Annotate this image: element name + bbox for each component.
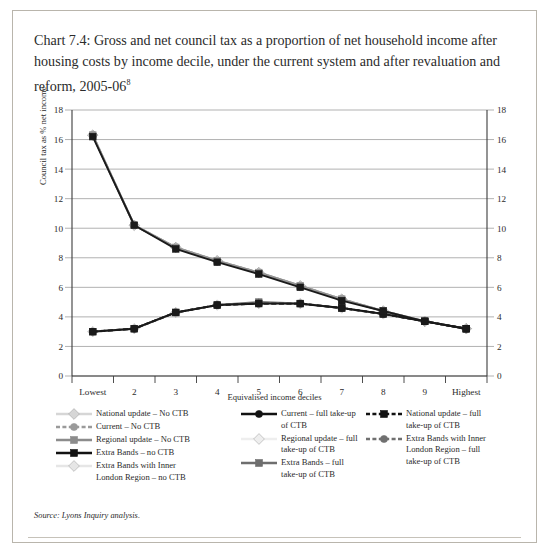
footer-divider [28, 537, 521, 538]
data-point-marker [297, 300, 304, 307]
legend-column-3: National update – fulltake-up of CTBExtr… [366, 408, 526, 469]
legend-key-icon [241, 408, 277, 420]
legend-key [56, 421, 92, 433]
legend-key [241, 408, 277, 420]
legend-key [56, 447, 92, 459]
legend-key-icon [56, 460, 92, 472]
legend-item[interactable]: Current – full take-upof CTB [241, 408, 366, 431]
x-tick-label: 3 [173, 387, 178, 397]
legend-item[interactable]: Regional update – fulltake-up of CTB [241, 433, 366, 456]
series-line [93, 135, 467, 329]
legend-key-icon [241, 433, 277, 445]
series-line [93, 137, 467, 329]
legend-item[interactable]: Extra Bands – no CTB [56, 447, 241, 459]
x-tick-label: Lowest [79, 387, 106, 397]
y-tick-label-right: 10 [497, 224, 507, 234]
y-tick-label-left: 4 [58, 312, 63, 322]
y-tick-label-left: 8 [58, 253, 63, 263]
legend-item-label: Extra Bands with InnerLondon Region – no… [96, 460, 241, 483]
y-tick-label-left: 6 [58, 283, 63, 293]
x-tick-label: 9 [422, 387, 427, 397]
data-point-marker [71, 450, 78, 457]
y-tick-label-right: 18 [497, 105, 507, 115]
legend-item-label-line2: take-up of CTB [281, 444, 366, 456]
data-point-marker [71, 437, 78, 444]
data-point-marker [70, 424, 77, 431]
y-tick-label-right: 6 [497, 283, 502, 293]
data-point-marker [89, 133, 96, 140]
y-tick-label-left: 18 [54, 105, 64, 115]
y-tick-label-left: 10 [54, 224, 64, 234]
legend-key-icon [56, 447, 92, 459]
legend-item[interactable]: Current – No CTB [56, 421, 241, 433]
legend-key [56, 460, 92, 472]
data-point-marker [338, 297, 345, 304]
data-point-marker [421, 318, 428, 325]
y-tick-label-left: 2 [58, 342, 63, 352]
legend-item-label-line3: take-up of CTB [406, 456, 526, 468]
legend-item[interactable]: National update – No CTB [56, 408, 241, 420]
legend-key-icon [241, 457, 277, 469]
legend-key [241, 457, 277, 469]
y-tick-label-right: 0 [497, 371, 502, 381]
y-tick-label-right: 2 [497, 342, 502, 352]
data-point-marker [255, 410, 262, 417]
legend-item[interactable]: National update – fulltake-up of CTB [366, 408, 526, 431]
legend-key-icon [56, 434, 92, 446]
data-point-marker [172, 246, 179, 253]
data-point-marker [69, 409, 80, 420]
data-point-marker [255, 300, 262, 307]
data-point-marker [131, 222, 138, 229]
data-point-marker [381, 411, 388, 418]
legend-item[interactable]: Extra Bands with InnerLondon Region – fu… [366, 433, 526, 468]
source-note: Source: Lyons Inquiry analysis. [34, 511, 140, 520]
legend-item-label: Current – full take-upof CTB [281, 408, 366, 431]
legend-key [366, 433, 402, 445]
legend-item[interactable]: Extra Bands – fulltake-up of CTB [241, 457, 366, 480]
data-point-marker [338, 305, 345, 312]
legend-item-label: National update – No CTB [96, 408, 241, 420]
data-point-marker [69, 461, 80, 472]
data-point-marker [380, 435, 387, 442]
legend-column-2: Current – full take-upof CTBRegional upd… [241, 408, 366, 482]
legend-item-label: Extra Bands with InnerLondon Region – fu… [406, 433, 526, 468]
legend-item[interactable]: Extra Bands with InnerLondon Region – no… [56, 460, 241, 483]
legend-key-icon [56, 421, 92, 433]
y-tick-label-left: 16 [54, 135, 64, 145]
x-tick-label: 6 [298, 387, 303, 397]
legend-column-1: National update – No CTBCurrent – No CTB… [56, 408, 241, 485]
data-point-marker [214, 259, 221, 266]
y-tick-label-left: 0 [58, 371, 63, 381]
legend-key [241, 433, 277, 445]
y-tick-label-right: 8 [497, 253, 502, 263]
x-tick-label: 8 [381, 387, 386, 397]
y-tick-label-right: 12 [497, 194, 507, 204]
legend-item[interactable]: Regional update – No CTB [56, 434, 241, 446]
data-point-marker [463, 325, 470, 332]
data-point-marker [255, 271, 262, 278]
legend-item-label: Regional update – No CTB [96, 434, 241, 446]
data-point-marker [380, 308, 387, 315]
legend-item-label: Regional update – fulltake-up of CTB [281, 433, 366, 456]
legend-key-icon [366, 433, 402, 445]
legend-key-icon [366, 408, 402, 420]
legend-item-label: National update – fulltake-up of CTB [406, 408, 526, 431]
data-point-marker [131, 325, 138, 332]
y-tick-label-left: 12 [54, 194, 64, 204]
data-point-marker [89, 328, 96, 335]
data-point-marker [297, 284, 304, 291]
legend-item-label-line2: of CTB [281, 420, 366, 432]
y-tick-label-right: 14 [497, 165, 507, 175]
legend-item-label-line2: London Region – no CTB [96, 472, 241, 484]
legend-item-label-line2: London Region – full [406, 444, 526, 456]
y-tick-label-right: 16 [497, 135, 507, 145]
legend-key [56, 434, 92, 446]
legend-item-label: Extra Bands – fulltake-up of CTB [281, 457, 366, 480]
chart-page: Chart 7.4: Gross and net council tax as … [0, 0, 549, 560]
legend-item-label-line2: take-up of CTB [281, 469, 366, 481]
legend-item-label: Current – No CTB [96, 421, 241, 433]
legend-key [366, 408, 402, 420]
y-tick-label-left: 14 [54, 165, 64, 175]
legend-item-label-line2: take-up of CTB [406, 420, 526, 432]
data-point-marker [172, 309, 179, 316]
